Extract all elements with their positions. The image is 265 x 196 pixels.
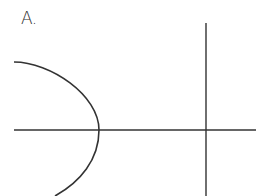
diagram <box>0 0 265 196</box>
parabola-curve <box>14 62 99 196</box>
